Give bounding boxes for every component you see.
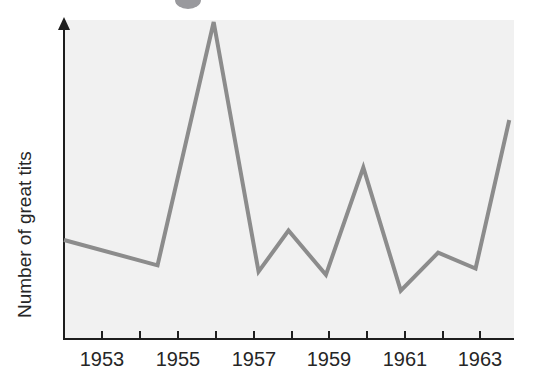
line-series-great-tits [64, 22, 509, 291]
chart-screenshot: Number of great tits 1953 1955 1957 1959… [0, 0, 543, 391]
series-canvas [0, 0, 543, 391]
